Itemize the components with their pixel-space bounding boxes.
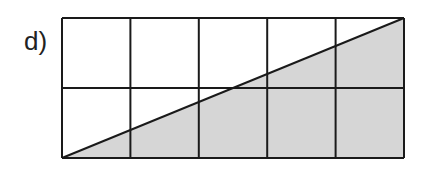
grid-diagram [0, 0, 421, 180]
